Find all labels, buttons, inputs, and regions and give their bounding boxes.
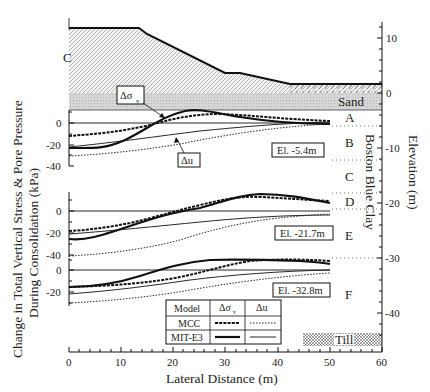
x-tick-50: 50: [324, 356, 336, 368]
y-axis-title-line1: Change in Total Vertical Stress & Pore P…: [10, 100, 25, 358]
elev-tick-m10: -10: [385, 142, 400, 154]
zone-f-label: F: [345, 287, 352, 302]
svg-text:El. -32.8m: El. -32.8m: [278, 285, 323, 296]
p2-tick-m20: -20: [46, 227, 61, 239]
zone-b-label: B: [345, 135, 354, 150]
zone-d-label: D: [345, 194, 354, 209]
fill-label: C: [63, 50, 72, 65]
sand-layer: Sand: [69, 93, 382, 110]
x-axis-title: Lateral Distance (m): [166, 371, 278, 386]
clay-label: Boston Blue Clay: [363, 134, 378, 230]
svg-text:Δσ: Δσ: [120, 90, 133, 101]
x-tick-10: 10: [115, 356, 127, 368]
y-axis-title-line2: During Consolidation (kPa): [26, 168, 41, 318]
elev-tick-m40: -40: [385, 307, 400, 319]
elev-tick-10: 10: [386, 32, 398, 44]
legend-mit-e3: MIT-E3: [171, 332, 203, 343]
elev-tick-0: 0: [386, 87, 392, 99]
legend-model-header: Model: [174, 303, 200, 314]
p1-tick-m40: -40: [46, 160, 61, 172]
p1-tick-m20: -20: [46, 139, 61, 151]
sand-label: Sand: [338, 94, 365, 109]
zone-c-label: C: [345, 169, 354, 184]
x-tick-0: 0: [66, 356, 72, 368]
elev-tick-m20: -20: [385, 197, 400, 209]
till-label: Till: [335, 332, 354, 347]
legend-dsigma-header: Δσ: [219, 302, 231, 313]
panel-2-curves: [69, 194, 330, 256]
svg-text:v: v: [233, 309, 236, 315]
consolidation-chart: C Sand A B C D E F Boston Blue Clay Till: [0, 0, 430, 392]
embankment: C: [63, 28, 382, 93]
elev-tick-m30: -30: [385, 252, 400, 264]
du-annotation: Δu: [174, 137, 200, 167]
x-tick-60: 60: [376, 356, 388, 368]
till-layer: Till: [303, 332, 382, 347]
elevation-box-3: El. -32.8m: [273, 283, 330, 297]
elevation-box-1: El. -5.4m: [272, 143, 324, 157]
zone-e-label: E: [345, 228, 353, 243]
elevation-axis-title: Elevation (m): [406, 135, 421, 210]
p2-tick-0: 0: [56, 205, 62, 217]
svg-text:El. -21.7m: El. -21.7m: [280, 228, 325, 239]
svg-text:El. -5.4m: El. -5.4m: [277, 145, 316, 156]
svg-text:Δu: Δu: [181, 155, 194, 166]
legend-du-header: Δu: [256, 302, 267, 313]
x-tick-20: 20: [167, 356, 179, 368]
p3-tick-m20: -20: [46, 286, 61, 298]
elevation-box-2: El. -21.7m: [275, 226, 333, 240]
legend: Model Δσ v Δu MCC MIT-E3: [166, 300, 281, 344]
x-tick-30: 30: [219, 356, 231, 368]
svg-text:v: v: [136, 97, 140, 105]
x-axis: [69, 347, 382, 352]
x-tick-40: 40: [272, 356, 284, 368]
p2-tick-m40: -40: [46, 249, 61, 261]
legend-mcc: MCC: [178, 318, 201, 329]
zone-a-label: A: [345, 110, 355, 125]
p1-tick-0: 0: [56, 117, 62, 129]
p3-tick-0: 0: [56, 264, 62, 276]
